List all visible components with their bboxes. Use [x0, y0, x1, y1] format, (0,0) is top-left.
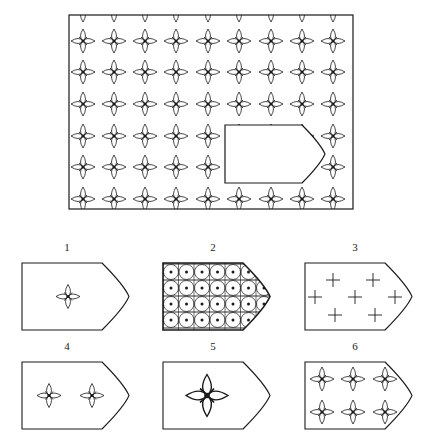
option-2[interactable]: 2	[163, 241, 272, 330]
option-outline	[305, 263, 412, 330]
option-5[interactable]: 5	[163, 340, 270, 429]
star-motif	[227, 60, 251, 84]
star-motif	[259, 0, 283, 22]
star-motif	[196, 0, 220, 22]
option-label: 5	[210, 340, 216, 352]
puzzle-canvas: 123456	[0, 0, 434, 446]
option-label: 6	[352, 340, 358, 352]
option-outline	[163, 362, 270, 429]
option-4[interactable]: 4	[22, 340, 129, 429]
option-outline	[22, 263, 129, 330]
star-motif	[290, 92, 314, 116]
star-motif	[227, 0, 251, 22]
star-motif	[102, 0, 126, 22]
star-motif	[341, 367, 365, 391]
star-motif	[227, 92, 251, 116]
star-motif	[227, 187, 251, 211]
star-motif	[102, 60, 126, 84]
star-motif	[196, 92, 220, 116]
option-6[interactable]: 6	[305, 340, 412, 429]
star-motif	[164, 60, 188, 84]
star-motif	[290, 60, 314, 84]
option-outline	[22, 362, 129, 429]
star-motif	[164, 29, 188, 53]
star-motif	[80, 384, 104, 408]
main-panel	[69, 0, 353, 211]
star-motif	[196, 124, 220, 148]
star-motif	[321, 187, 345, 211]
star-motif	[290, 0, 314, 22]
star-motif	[164, 92, 188, 116]
option-label: 2	[210, 241, 216, 253]
star-motif	[102, 29, 126, 53]
star-motif	[196, 29, 220, 53]
option-content	[56, 285, 80, 309]
star-motif	[56, 285, 80, 309]
star-motif	[71, 29, 95, 53]
star-motif	[259, 29, 283, 53]
star-motif	[186, 375, 228, 417]
star-motif	[71, 60, 95, 84]
star-motif	[164, 124, 188, 148]
star-motif	[321, 155, 345, 179]
option-1[interactable]: 1	[22, 241, 129, 330]
star-motif	[71, 92, 95, 116]
star-motif	[133, 155, 157, 179]
star-motif	[321, 0, 345, 22]
star-motif	[290, 29, 314, 53]
star-motif	[164, 0, 188, 22]
star-motif	[341, 400, 365, 424]
option-label: 4	[64, 340, 70, 352]
star-motif	[164, 187, 188, 211]
star-motif	[310, 400, 334, 424]
star-motif	[290, 187, 314, 211]
option-content	[37, 384, 104, 408]
option-outline	[305, 362, 412, 429]
star-motif	[71, 187, 95, 211]
star-motif	[259, 187, 283, 211]
star-motif	[102, 124, 126, 148]
star-motif	[259, 60, 283, 84]
option-label: 3	[352, 241, 358, 253]
option-label: 1	[64, 241, 70, 253]
option-content	[308, 273, 402, 322]
star-motif	[102, 92, 126, 116]
option-content	[163, 263, 272, 330]
star-motif	[133, 187, 157, 211]
star-motif	[321, 60, 345, 84]
star-motif	[71, 155, 95, 179]
star-motif	[102, 187, 126, 211]
puzzle-stage: 123456	[0, 0, 434, 446]
star-motif	[102, 155, 126, 179]
star-motif	[71, 124, 95, 148]
star-motif	[196, 187, 220, 211]
option-3[interactable]: 3	[305, 241, 412, 330]
star-motif	[227, 29, 251, 53]
star-motif	[196, 155, 220, 179]
star-motif	[321, 92, 345, 116]
missing-piece-hole	[225, 125, 325, 183]
star-motif	[37, 384, 61, 408]
star-motif	[259, 92, 283, 116]
star-motif	[164, 155, 188, 179]
option-content	[186, 375, 228, 417]
star-motif	[133, 60, 157, 84]
option-content	[310, 367, 397, 424]
star-motif	[133, 29, 157, 53]
star-motif	[310, 367, 334, 391]
star-motif	[133, 0, 157, 22]
star-motif	[196, 60, 220, 84]
star-motif	[71, 0, 95, 22]
star-motif	[133, 92, 157, 116]
star-motif	[321, 124, 345, 148]
star-motif	[133, 124, 157, 148]
star-motif	[321, 29, 345, 53]
